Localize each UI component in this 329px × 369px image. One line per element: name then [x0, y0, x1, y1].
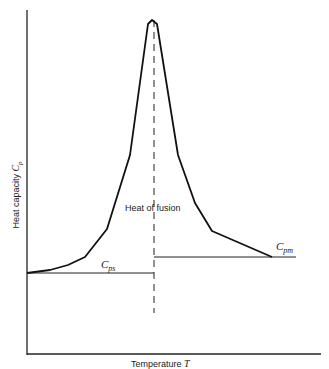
x-axis-label-var: T: [184, 358, 190, 369]
cpm-sub: pm: [283, 246, 293, 255]
heat-capacity-curve: [27, 20, 272, 273]
cps-label: Cps: [101, 258, 115, 273]
x-axis-label-text: Temperature: [131, 359, 182, 369]
cps-sub: ps: [108, 264, 115, 273]
y-axis-label: Heat capacity Cp: [10, 150, 24, 240]
cpm-label: Cpm: [276, 240, 293, 255]
heat-of-fusion-label: Heat of fusion: [125, 203, 181, 213]
heat-capacity-diagram: [0, 0, 329, 369]
y-axis-label-sub: p: [16, 161, 24, 165]
y-axis-label-var: C: [10, 165, 21, 172]
x-axis-label: Temperature T: [131, 358, 190, 369]
y-axis-label-text: Heat capacity: [11, 174, 21, 229]
